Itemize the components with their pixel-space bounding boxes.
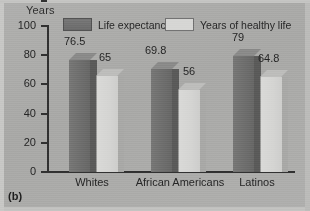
bar-side-face bbox=[281, 77, 288, 172]
bar-front-face bbox=[260, 77, 282, 172]
y-tick-label-60: 60 bbox=[6, 78, 36, 89]
value-label-latinos-life-expectancy: 79 bbox=[232, 32, 244, 43]
value-label-latinos-healthy-life: 64.8 bbox=[258, 53, 279, 64]
plot-area bbox=[47, 25, 295, 172]
bar-front-face bbox=[233, 56, 254, 172]
bar-group-latinos bbox=[233, 25, 303, 172]
bar-front-face bbox=[96, 76, 118, 172]
value-label-whites-healthy-life: 65 bbox=[99, 52, 111, 63]
y-tick-label-0: 0 bbox=[6, 166, 36, 177]
x-tick-label-whites: Whites bbox=[52, 176, 132, 188]
bar-side-face bbox=[199, 90, 206, 172]
bar-front-face bbox=[69, 60, 90, 172]
y-tick-label-80: 80 bbox=[6, 49, 36, 60]
y-axis-title: Years bbox=[26, 4, 55, 16]
value-label-african-americans-healthy-life: 56 bbox=[183, 66, 195, 77]
figure-caption-label: (b) bbox=[8, 190, 22, 202]
figure-panel: Years Life expectancy Years of healthy l… bbox=[0, 0, 310, 211]
bar-group-whites bbox=[69, 25, 139, 172]
y-tick-label-100: 100 bbox=[6, 20, 36, 31]
value-label-whites-life-expectancy: 76.5 bbox=[64, 36, 85, 47]
bar-top-face bbox=[151, 62, 179, 69]
bar-top-face bbox=[260, 70, 288, 77]
bar-front-face bbox=[178, 90, 200, 172]
x-tick-label-african-americans: African Americans bbox=[125, 176, 235, 188]
bar-top-face bbox=[233, 49, 261, 56]
bar-top-face bbox=[178, 83, 206, 90]
bar-top-face bbox=[69, 53, 97, 60]
x-tick-label-latinos: Latinos bbox=[222, 176, 292, 188]
value-label-african-americans-life-expectancy: 69.8 bbox=[145, 45, 166, 56]
bar-side-face bbox=[117, 76, 124, 172]
y-tick-label-20: 20 bbox=[6, 137, 36, 148]
bar-top-face bbox=[96, 69, 124, 76]
bar-front-face bbox=[151, 69, 172, 172]
y-tick-60 bbox=[41, 0, 47, 2]
y-tick-label-40: 40 bbox=[6, 108, 36, 119]
